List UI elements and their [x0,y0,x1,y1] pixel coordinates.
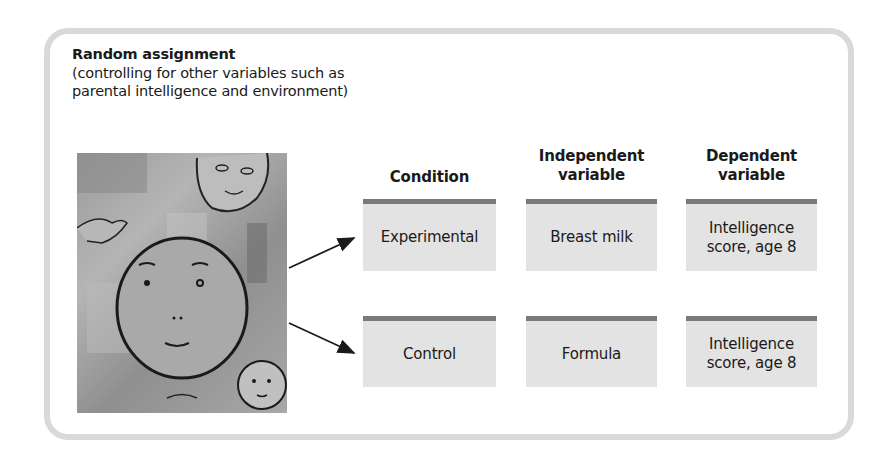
header-independent-line1: Independent [539,147,644,165]
header-independent-line2: variable [558,166,625,184]
cell-text-line1: Intelligence [709,219,794,237]
cell-text: Experimental [381,228,479,247]
header-dependent-line1: Dependent [706,147,797,165]
column-header-condition: Condition [363,168,496,187]
cell-text-line1: Intelligence [709,335,794,353]
intro-title: Random assignment [72,45,352,64]
intro-text: Random assignment (controlling for other… [72,45,352,101]
cell-text-line2: score, age 8 [707,354,797,372]
cell-experimental-dependent: Intelligence score, age 8 [686,199,817,271]
header-dependent-line2: variable [718,166,785,184]
column-header-independent: Independent variable [526,147,657,185]
cell-text-line2: score, age 8 [707,238,797,256]
cell-control-condition: Control [363,316,496,387]
cell-text: Intelligence score, age 8 [707,219,797,257]
column-header-dependent: Dependent variable [686,147,817,185]
cell-text: Intelligence score, age 8 [707,335,797,373]
intro-description: (controlling for other variables such as… [72,64,352,101]
faces-drawing-icon [77,153,287,413]
header-condition-text: Condition [390,168,469,186]
cell-text: Control [403,345,456,364]
children-illustration [77,153,287,413]
cell-control-independent: Formula [526,316,657,387]
cell-text: Formula [562,345,621,364]
cell-experimental-independent: Breast milk [526,199,657,271]
cell-experimental-condition: Experimental [363,199,496,271]
cell-control-dependent: Intelligence score, age 8 [686,316,817,387]
cell-text: Breast milk [550,228,632,247]
